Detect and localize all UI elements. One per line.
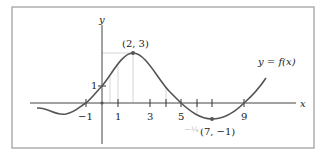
pencil-mark: −¼ bbox=[184, 125, 199, 134]
x-axis-label: x bbox=[300, 98, 306, 109]
function-graph: y x −1 1 3 5 9 1 (2, 3) (7, −1) y = f(x)… bbox=[0, 0, 327, 159]
x-tick-label-neg1: −1 bbox=[78, 111, 93, 122]
minimum-point-label: (7, −1) bbox=[200, 126, 235, 137]
minimum-point bbox=[210, 117, 214, 121]
curve-label: y = f(x) bbox=[257, 56, 296, 67]
maximum-point bbox=[131, 51, 135, 55]
x-tick-label-3: 3 bbox=[147, 111, 153, 122]
diagram-frame bbox=[12, 7, 314, 148]
maximum-point-label: (2, 3) bbox=[122, 38, 149, 49]
y-axis-label: y bbox=[98, 14, 105, 25]
origin-point bbox=[100, 101, 103, 104]
x-tick-label-1: 1 bbox=[115, 111, 121, 122]
x-tick-label-9: 9 bbox=[241, 111, 247, 122]
x-tick-label-5: 5 bbox=[178, 111, 184, 122]
y-tick-label-1: 1 bbox=[91, 80, 97, 91]
